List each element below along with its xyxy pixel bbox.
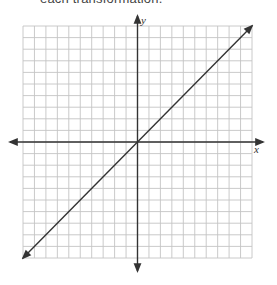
coordinate-plane: x y <box>0 0 277 285</box>
y-axis-label: y <box>140 14 146 26</box>
x-axis-label: x <box>253 143 259 155</box>
